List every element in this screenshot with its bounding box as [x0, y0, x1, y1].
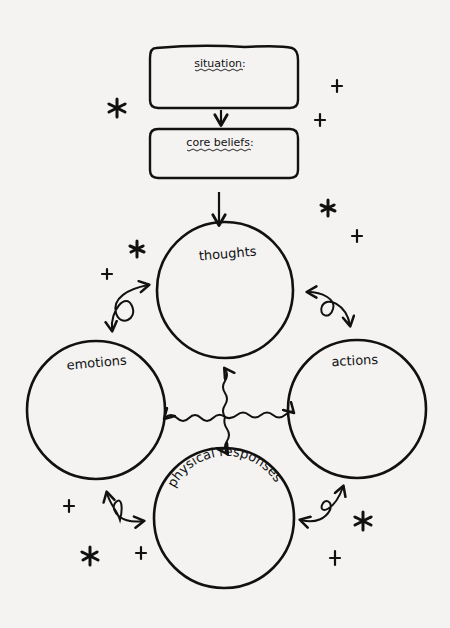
situation-box[interactable]: situation: [150, 46, 298, 108]
star-icon [109, 99, 125, 117]
cbt-diagram: situation: core beliefs: thoughts emotio… [0, 0, 450, 628]
emotions-physical-loop-arrow-icon [107, 493, 143, 521]
situation-label: situation: [194, 57, 246, 70]
thoughts-emotions-loop-arrow-icon [112, 285, 148, 330]
emotions-label: emotions [66, 352, 128, 372]
core-beliefs-box[interactable]: core beliefs: [150, 129, 298, 178]
plus-icon [64, 500, 74, 512]
emotions-circle[interactable]: emotions [27, 341, 165, 479]
star-icon [355, 512, 371, 530]
actions-circle[interactable]: actions [288, 340, 426, 478]
plus-icon [330, 551, 340, 565]
thoughts-circle[interactable]: thoughts [157, 222, 293, 358]
plus-decorations [64, 80, 362, 565]
actions-physical-loop-arrow-icon [301, 487, 343, 521]
star-icon [82, 547, 98, 565]
star-decorations [82, 99, 371, 565]
thoughts-actions-loop-arrow-icon [308, 292, 350, 325]
core-beliefs-label: core beliefs: [186, 136, 253, 149]
actions-label: actions [331, 352, 379, 369]
star-icon [130, 241, 144, 257]
plus-icon [352, 230, 362, 242]
star-icon [321, 200, 335, 216]
plus-icon [136, 547, 146, 559]
plus-icon [332, 80, 342, 92]
plus-icon [315, 114, 325, 126]
wavy-four-way-arrow-icon [165, 369, 293, 453]
plus-icon [102, 269, 112, 279]
core-beliefs-underline [187, 149, 251, 151]
thoughts-label: thoughts [198, 244, 257, 264]
physical-responses-circle[interactable]: physical responses [154, 444, 294, 588]
